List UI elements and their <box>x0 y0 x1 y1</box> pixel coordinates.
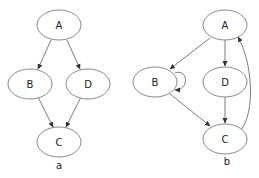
caption-b: b <box>224 156 230 167</box>
svg-text:A: A <box>222 20 229 31</box>
edge-a-A-B <box>38 40 51 69</box>
graph-diagrams: A B D C a A B D <box>0 0 259 178</box>
diagram-a: A B D C a <box>8 10 110 171</box>
edge-a-B-C <box>38 97 53 127</box>
diagram-b: A B D C b <box>133 10 251 167</box>
node-a-D: D <box>66 69 110 99</box>
svg-text:D: D <box>221 77 229 88</box>
svg-text:B: B <box>27 79 34 90</box>
node-b-B: B <box>133 67 177 97</box>
node-a-A: A <box>37 10 81 40</box>
caption-a: a <box>56 160 62 171</box>
svg-text:B: B <box>152 77 159 88</box>
svg-text:C: C <box>56 137 63 148</box>
edge-a-D-C <box>66 97 81 127</box>
node-b-A: A <box>203 10 247 40</box>
edge-b-B-C <box>170 94 210 126</box>
node-a-C: C <box>37 127 81 157</box>
node-a-B: B <box>8 69 52 99</box>
svg-text:A: A <box>56 20 63 31</box>
svg-text:D: D <box>84 79 92 90</box>
edge-a-A-D <box>67 40 80 69</box>
svg-text:C: C <box>222 134 229 145</box>
edge-b-A-B <box>170 38 210 69</box>
node-b-C: C <box>203 124 247 154</box>
node-b-D: D <box>203 67 247 97</box>
